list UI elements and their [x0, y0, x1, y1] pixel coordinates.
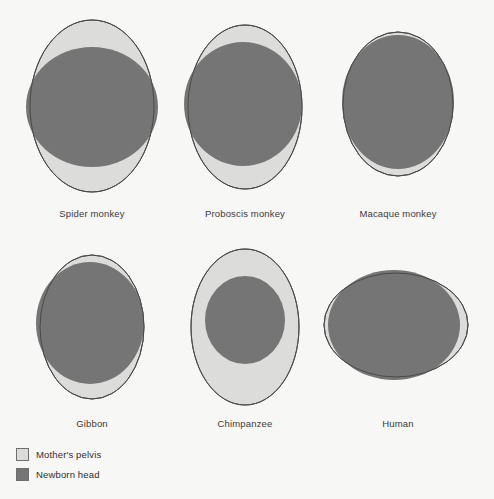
newborn-head-shape [26, 47, 158, 167]
newborn-head-shape [184, 42, 302, 166]
legend-label-pelvis: Mother's pelvis [36, 449, 101, 460]
species-label: Gibbon [76, 418, 108, 429]
species-group-spider-monkey [26, 20, 158, 192]
species-group-gibbon [36, 255, 144, 399]
species-label: Human [382, 418, 413, 429]
legend-item-newborn-head: Newborn head [16, 464, 101, 484]
legend-swatch-newborn-head-icon [16, 468, 29, 481]
species-group-macaque-monkey [342, 32, 454, 176]
species-group-chimpanzee [191, 249, 299, 405]
species-label: Chimpanzee [218, 418, 273, 429]
legend-item-pelvis: Mother's pelvis [16, 444, 101, 464]
species-label: Proboscis monkey [205, 208, 285, 219]
newborn-head-shape [342, 35, 454, 169]
species-label: Spider monkey [59, 208, 124, 219]
newborn-head-shape [205, 276, 285, 364]
species-label: Macaque monkey [359, 208, 436, 219]
legend-label-newborn-head: Newborn head [36, 469, 100, 480]
legend-swatch-pelvis-icon [16, 448, 29, 461]
legend: Mother's pelvis Newborn head [16, 444, 101, 484]
species-group-proboscis-monkey [184, 25, 302, 189]
species-group-human [324, 270, 468, 380]
